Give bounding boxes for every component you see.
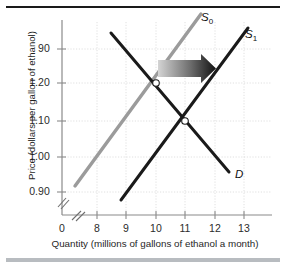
x-axis-break-mark (72, 211, 85, 221)
y-tick-label-4: 0.90 (16, 185, 50, 197)
y-axis-break-mark (58, 198, 69, 209)
new-equilibrium-point (182, 118, 189, 125)
curve-label-d: D (235, 168, 243, 180)
curve-label-s0-sub: 0 (209, 17, 213, 26)
x-tick-label-1: 8 (86, 222, 108, 234)
figure-container: 90 1.20 1.10 1.00 0.90 0 8 9 10 11 12 13… (0, 0, 286, 267)
x-tick-label-6: 13 (233, 222, 255, 234)
x-tick-label-3: 10 (145, 222, 167, 234)
initial-equilibrium-point (153, 80, 160, 87)
curve-label-s1-sub: 1 (253, 34, 257, 43)
supply-curve-s1 (121, 28, 248, 200)
x-tick-label-4: 11 (174, 222, 196, 234)
curve-label-s0: S0 (201, 11, 213, 26)
x-tick-label-2: 9 (115, 222, 137, 234)
curve-label-s1-text: S (245, 28, 253, 40)
curve-label-s0-text: S (201, 11, 209, 23)
x-tick-label-0: 0 (51, 222, 73, 234)
y-axis-title: Price (dollars per gallon of ethanol) (26, 26, 37, 186)
curve-label-s1: S1 (245, 28, 257, 43)
x-tick-label-5: 12 (204, 222, 226, 234)
x-axis-title: Quantity (millions of gallons of ethanol… (30, 238, 280, 249)
gridlines-vertical (97, 22, 244, 215)
supply-curve-s0 (75, 14, 201, 186)
